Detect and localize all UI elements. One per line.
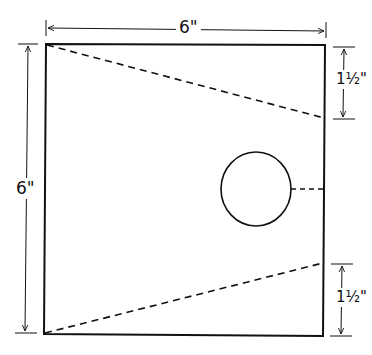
square-outline [44, 44, 325, 336]
right-lower-label: 1½" [336, 288, 367, 307]
top-width-label: 6" [176, 19, 201, 36]
diagram-drawing [0, 0, 372, 355]
circle-hole [221, 152, 291, 226]
lower-fold-line [45, 263, 323, 333]
upper-fold-line [47, 45, 324, 118]
diagram-canvas: 6" 6" 1½" 1½" [0, 0, 372, 355]
right-upper-label: 1½" [336, 70, 367, 89]
left-height-label: 6" [16, 178, 35, 199]
